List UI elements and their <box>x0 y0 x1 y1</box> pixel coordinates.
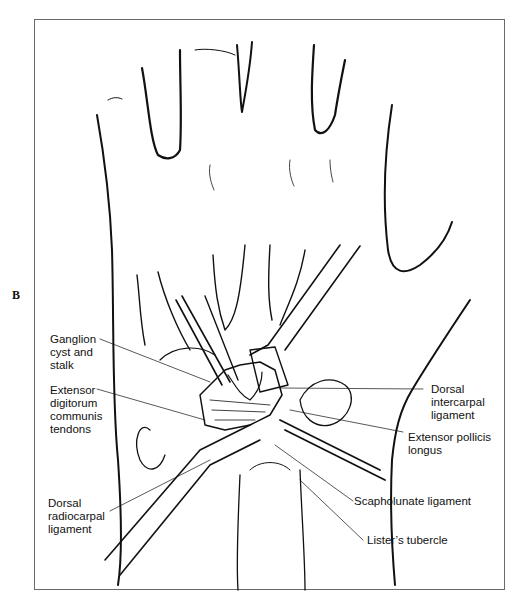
panel-letter: B <box>12 288 20 303</box>
label-listers-tubercle: Lister’s tubercle <box>367 534 448 547</box>
label-dorsal-radiocarpal-ligament: Dorsal radiocarpal ligament <box>48 497 105 536</box>
label-dorsal-intercarpal-ligament: Dorsal intercarpal ligament <box>431 383 485 422</box>
label-extensor-digitorum-communis-tendons: Extensor digitorum communis tendons <box>50 384 102 436</box>
label-extensor-pollicis-longus: Extensor pollicis longus <box>408 431 491 457</box>
label-ganglion-cyst-and-stalk: Ganglion cyst and stalk <box>50 333 96 372</box>
label-scapholunate-ligament: Scapholunate ligament <box>354 495 471 508</box>
